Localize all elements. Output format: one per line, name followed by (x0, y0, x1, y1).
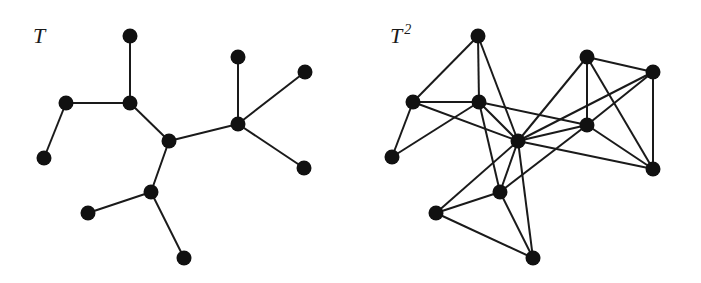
vertex-d (385, 150, 400, 165)
edge-b-d (44, 103, 66, 158)
vertex-g (231, 50, 246, 65)
vertex-k (81, 206, 96, 221)
edge-c-j (479, 102, 500, 192)
vertex-j (144, 185, 159, 200)
square-graph-T2: T2 (385, 22, 661, 266)
edge-e-l (518, 141, 533, 258)
vertex-i (646, 162, 661, 177)
vertex-c (123, 96, 138, 111)
edge-e-f (169, 124, 238, 141)
vertex-a (123, 29, 138, 44)
edge-j-l (151, 192, 184, 258)
vertex-a (471, 29, 486, 44)
vertex-c (472, 95, 487, 110)
square-graph-T2-label: T2 (390, 22, 411, 48)
vertex-k (429, 206, 444, 221)
edge-b-d (392, 102, 413, 157)
vertex-h (646, 65, 661, 80)
tree-T-label: T (33, 23, 47, 48)
edge-j-k (88, 192, 151, 213)
edge-c-e (479, 102, 518, 141)
vertex-b (406, 95, 421, 110)
vertex-g (580, 50, 595, 65)
edge-g-h (587, 57, 653, 72)
edge-e-j (151, 141, 169, 192)
vertex-f (231, 117, 246, 132)
tree-T-graph: T (33, 23, 313, 266)
vertex-e (162, 134, 177, 149)
tree-T-edges (44, 36, 305, 258)
edge-k-l (436, 213, 533, 258)
edge-f-i (238, 124, 304, 168)
vertex-l (177, 251, 192, 266)
edge-g-i (587, 57, 653, 169)
superscript-2: 2 (404, 22, 411, 37)
edge-a-c (478, 36, 479, 102)
vertex-l (526, 251, 541, 266)
vertex-i (297, 161, 312, 176)
vertex-h (298, 65, 313, 80)
figure-canvas: T T2 (0, 0, 701, 283)
vertex-b (59, 96, 74, 111)
edge-c-e (130, 103, 169, 141)
vertex-e (511, 134, 526, 149)
edge-f-h (238, 72, 305, 124)
edge-f-h (587, 72, 653, 125)
edge-a-b (413, 36, 478, 102)
vertex-j (493, 185, 508, 200)
vertex-d (37, 151, 52, 166)
edge-j-k (436, 192, 500, 213)
vertex-f (580, 118, 595, 133)
